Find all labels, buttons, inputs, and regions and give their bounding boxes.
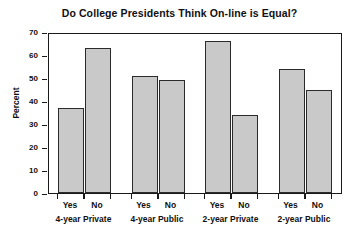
x-tick-mark: [331, 194, 332, 199]
bar: [306, 90, 332, 194]
x-tick-mark: [278, 194, 279, 199]
x-tick-mark: [204, 194, 205, 199]
plot-area: [48, 33, 342, 194]
x-tick-mark: [257, 194, 258, 199]
x-tick-mark: [305, 194, 306, 199]
bar-label: Yes: [55, 200, 85, 210]
bar-label: No: [303, 200, 333, 210]
bar-label: No: [82, 200, 112, 210]
bar: [159, 80, 185, 193]
x-tick-mark: [110, 194, 111, 199]
bar-chart-figure: Do College Presidents Think On-line is E…: [0, 0, 359, 237]
y-tick-mark: [42, 102, 47, 103]
x-tick-mark: [131, 194, 132, 199]
y-tick-label: 70: [14, 28, 38, 38]
bar-label: Yes: [129, 200, 159, 210]
x-tick-mark: [57, 194, 58, 199]
group-label: 2-year Public: [259, 214, 349, 224]
bar-label: Yes: [202, 200, 232, 210]
y-tick-label: 50: [14, 74, 38, 84]
y-tick-mark: [42, 125, 47, 126]
y-tick-label: 40: [14, 97, 38, 107]
bar: [279, 69, 305, 193]
bar-label: Yes: [276, 200, 306, 210]
y-tick-label: 20: [14, 143, 38, 153]
bar: [205, 41, 231, 193]
bar-label: No: [229, 200, 259, 210]
x-tick-mark: [231, 194, 232, 199]
bar: [132, 76, 158, 193]
chart-title: Do College Presidents Think On-line is E…: [0, 7, 359, 19]
bar: [232, 115, 258, 193]
y-tick-mark: [42, 79, 47, 80]
y-tick-mark: [42, 148, 47, 149]
bar: [58, 108, 84, 193]
y-tick-mark: [42, 194, 47, 195]
x-tick-mark: [184, 194, 185, 199]
y-tick-mark: [42, 56, 47, 57]
y-tick-label: 10: [14, 166, 38, 176]
y-tick-mark: [42, 171, 47, 172]
y-tick-label: 0: [14, 189, 38, 199]
y-tick-mark: [42, 33, 47, 34]
y-tick-label: 60: [14, 51, 38, 61]
x-tick-mark: [84, 194, 85, 199]
bar: [85, 48, 111, 193]
x-tick-mark: [158, 194, 159, 199]
y-tick-label: 30: [14, 120, 38, 130]
bar-label: No: [156, 200, 186, 210]
